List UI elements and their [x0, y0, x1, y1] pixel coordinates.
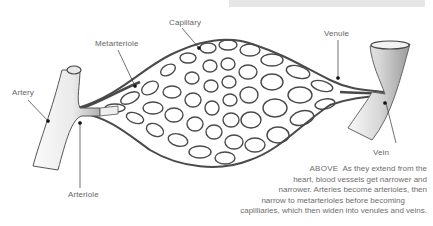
caption-line-3: narrower. Arteries become arterioles, th… [127, 185, 427, 196]
label-venule: Venule [324, 29, 349, 38]
caption-line-5: capilliaries, which then widen into venu… [127, 206, 427, 217]
label-capillary: Capillary [169, 18, 201, 27]
caption-line-4: narrow to metarterioles before becoming [127, 196, 405, 207]
artery-vessel [33, 66, 118, 170]
caption-lead: ABOVE [309, 164, 338, 173]
label-artery: Artery [12, 88, 34, 97]
capillary-network [78, 40, 388, 167]
label-vein: Vein [373, 148, 389, 157]
label-metarteriole: Metarteriole [95, 39, 138, 48]
figure-caption: ABOVE As they extend from the heart, blo… [127, 164, 427, 217]
caption-line-1: ABOVE As they extend from the [127, 164, 427, 175]
caption-line-2: heart, blood vessels get narrower and [127, 175, 427, 186]
label-arteriole: Arteriole [68, 190, 99, 199]
